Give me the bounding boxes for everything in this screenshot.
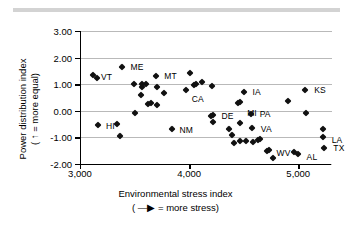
- x-tick-label: 4,000: [159, 168, 219, 179]
- gridline: [81, 31, 332, 32]
- data-point-marker: [131, 81, 138, 88]
- data-point-marker: [182, 87, 189, 94]
- y-tick: [75, 111, 81, 112]
- gridline: [81, 111, 332, 112]
- y-tick: [75, 58, 81, 59]
- data-point-marker: [294, 150, 301, 157]
- y-tick-label: 1.00: [0, 79, 72, 90]
- x-axis-title-note: ( —▶ = more stress): [0, 202, 351, 213]
- data-point-marker: [154, 101, 161, 108]
- x-axis-line: [80, 164, 331, 165]
- plot-area: VTHIMEMTNMCADEMIIAPAVAWVALKSLATX: [80, 31, 331, 164]
- data-point-marker: [94, 75, 101, 82]
- data-point-marker: [160, 89, 167, 96]
- data-point-marker: [321, 144, 328, 151]
- data-point-label: TX: [333, 143, 344, 153]
- y-tick: [75, 84, 81, 85]
- y-tick-label: 2.00: [0, 52, 72, 63]
- y-tick-label: 3.00: [0, 26, 72, 37]
- gridline: [81, 84, 332, 85]
- data-point-marker: [240, 89, 247, 96]
- data-point-label: ME: [130, 62, 143, 72]
- data-point-marker: [319, 133, 326, 140]
- data-point-marker: [302, 86, 309, 93]
- data-point-label: CA: [192, 94, 204, 104]
- data-point-label: PA: [260, 109, 271, 119]
- data-point-marker: [248, 125, 255, 132]
- data-point-marker: [237, 120, 244, 127]
- data-point-label: VA: [261, 124, 272, 134]
- data-point-label: MT: [164, 71, 176, 81]
- data-point-marker: [113, 120, 120, 127]
- data-point-label: WV: [277, 148, 291, 158]
- data-point-marker: [168, 126, 175, 133]
- data-point-label: DE: [222, 111, 234, 121]
- data-point-marker: [187, 70, 194, 77]
- data-point-label: KS: [314, 85, 326, 95]
- y-tick-label: -1.00: [0, 132, 72, 143]
- y-tick: [75, 137, 81, 138]
- data-point-label: VT: [101, 72, 112, 82]
- gridline: [81, 58, 332, 59]
- data-point-marker: [153, 72, 160, 79]
- y-tick-label: 0.00: [0, 105, 72, 116]
- data-point-label: AL: [307, 152, 318, 162]
- data-point-marker: [94, 122, 101, 129]
- x-tick-label: 3,000: [50, 168, 110, 179]
- data-point-label: IA: [253, 87, 261, 97]
- data-point-marker: [119, 63, 126, 70]
- x-tick-label: 5,000: [268, 168, 328, 179]
- data-point-label: NM: [180, 125, 193, 135]
- chart-figure: Power distribution index ( ↑ = more equa…: [0, 0, 351, 230]
- y-tick: [75, 31, 81, 32]
- data-point-marker: [137, 91, 144, 98]
- data-point-marker: [285, 97, 292, 104]
- x-axis-title: Environmental stress index: [0, 188, 351, 199]
- header-rule: [13, 8, 340, 12]
- data-point-marker: [319, 125, 326, 132]
